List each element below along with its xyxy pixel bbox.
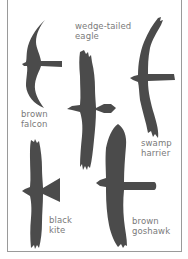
label-brown-falcon: brown falcon <box>21 109 48 129</box>
label-line: wedge-tailed <box>75 21 131 31</box>
brown-falcon-silhouette <box>22 20 62 108</box>
label-line: kite <box>49 225 72 235</box>
label-line: goshawk <box>132 226 170 236</box>
label-line: black <box>49 215 72 225</box>
label-line: harrier <box>141 148 172 158</box>
label-line: brown <box>132 216 170 226</box>
label-line: brown <box>21 109 48 119</box>
label-swamp-harrier: swamp harrier <box>141 138 172 158</box>
label-brown-goshawk: brown goshawk <box>132 216 170 236</box>
label-wedge-tailed-eagle: wedge-tailed eagle <box>75 21 131 41</box>
swamp-harrier-silhouette <box>130 17 175 138</box>
label-line: falcon <box>21 119 48 129</box>
label-black-kite: black kite <box>49 215 72 235</box>
label-line: eagle <box>75 31 131 41</box>
label-line: swamp <box>141 138 172 148</box>
